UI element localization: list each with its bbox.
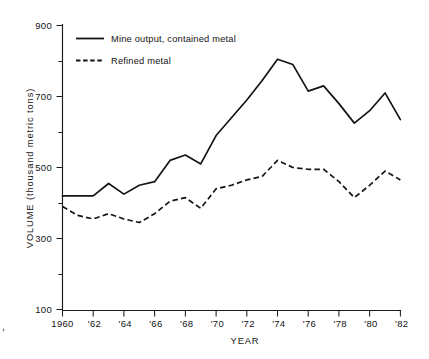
x-tick-label-1974: '74 (272, 318, 285, 329)
x-tick-label-1966: '66 (149, 318, 162, 329)
x-tick-label-1968: '68 (180, 318, 193, 329)
x-tick-label-1962: '62 (88, 318, 101, 329)
y-axis-title: VOLUME (thousand metric tons) (25, 88, 35, 248)
y-tick-label-700: 700 (35, 91, 52, 102)
chart-legend: Mine output, contained metal Refined met… (76, 34, 236, 66)
y-tick-label-300: 300 (35, 233, 52, 244)
chart-figure: 900 700 500 300 100 VOLUME (thousand met… (0, 0, 429, 359)
line-chart: 900 700 500 300 100 VOLUME (thousand met… (0, 0, 429, 359)
margin-mark: , (2, 321, 5, 332)
x-tick-label-1978: '78 (334, 318, 347, 329)
legend-label-refined-metal: Refined metal (111, 56, 171, 66)
y-tick-label-100: 100 (35, 304, 52, 315)
x-axis-title: YEAR (231, 336, 260, 346)
y-tick-label-900: 900 (35, 20, 52, 31)
y-axis-major-ticks (57, 26, 63, 310)
x-tick-label-1964: '64 (119, 318, 132, 329)
x-tick-label-1970: '70 (211, 318, 224, 329)
x-tick-label-1972: '72 (241, 318, 254, 329)
series-line-mine-output (63, 59, 401, 196)
x-tick-label-1976: '76 (303, 318, 316, 329)
chart-axes (63, 25, 401, 311)
series-line-refined-metal (63, 160, 401, 222)
x-tick-label-1980: '80 (364, 318, 377, 329)
legend-label-mine-output: Mine output, contained metal (111, 34, 236, 44)
y-tick-label-500: 500 (35, 162, 52, 173)
x-tick-label-1960: 1960 (51, 318, 73, 329)
x-tick-label-1982: '82 (395, 318, 408, 329)
x-axis-ticks (63, 311, 401, 317)
